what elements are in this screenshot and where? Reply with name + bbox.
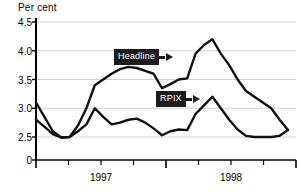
annotation-rpix: RPIX [156,91,200,107]
annotation-headline: Headline [114,49,173,65]
gridlines [36,22,296,137]
chart-container: Per cent 02.53.03.54.04.5 19971998 Headl… [0,0,299,192]
annotation-headline-arrow-icon [166,53,173,61]
annotation-headline-stem [159,56,165,59]
annotation-rpix-label: RPIX [156,91,186,107]
annotation-rpix-stem [186,98,192,101]
annotation-headline-label: Headline [114,49,159,65]
chart-plot-area [0,0,299,192]
y-axis [32,18,36,160]
annotation-rpix-arrow-icon [193,95,200,103]
x-axis [36,160,296,168]
